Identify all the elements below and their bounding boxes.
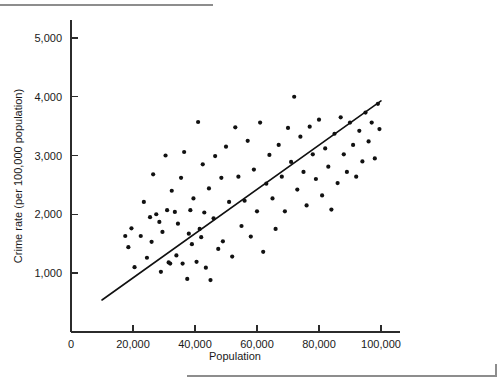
x-axis: 020,00040,00060,00080,000100,000 Populat… (68, 325, 401, 362)
data-point (377, 127, 381, 131)
data-point (176, 222, 180, 226)
data-point (258, 121, 262, 125)
data-point (367, 139, 371, 143)
data-point (286, 126, 290, 130)
y-axis-title: Crime rate (per 100,000 population) (12, 89, 24, 263)
data-point (199, 235, 203, 239)
data-point (194, 260, 198, 264)
scatter-plot: 1,0002,0003,0004,0005,000 Crime rate (pe… (0, 0, 497, 385)
data-point (360, 159, 364, 163)
data-point (190, 242, 194, 246)
y-tick-label: 5,000 (34, 32, 62, 44)
data-point (249, 234, 253, 238)
data-point (129, 226, 133, 230)
data-point (336, 181, 340, 185)
data-point (239, 224, 243, 228)
x-tick-label: 80,000 (302, 338, 336, 350)
data-point (320, 193, 324, 197)
data-point (339, 115, 343, 119)
data-point (148, 215, 152, 219)
data-point (246, 139, 250, 143)
x-axis-ticks: 020,00040,00060,00080,000100,000 (68, 325, 401, 350)
data-point (311, 152, 315, 156)
data-point (179, 176, 183, 180)
data-point (174, 253, 178, 257)
data-point (221, 239, 225, 243)
data-point (326, 165, 330, 169)
data-point (345, 170, 349, 174)
data-point (298, 135, 302, 139)
data-point (201, 162, 205, 166)
data-point (342, 152, 346, 156)
x-tick-label: 100,000 (361, 338, 401, 350)
x-tick-label: 20,000 (116, 338, 150, 350)
data-point (230, 254, 234, 258)
data-point (151, 172, 155, 176)
data-point (165, 208, 169, 212)
data-point (277, 143, 281, 147)
data-point (373, 156, 377, 160)
data-point (370, 121, 374, 125)
y-tick-label: 3,000 (34, 150, 62, 162)
x-axis-title: Population (209, 350, 261, 362)
data-point (182, 150, 186, 154)
x-tick-label: 60,000 (240, 338, 274, 350)
data-point (132, 265, 136, 269)
data-point (142, 200, 146, 204)
data-point (323, 146, 327, 150)
data-point (261, 250, 265, 254)
data-point (351, 143, 355, 147)
data-point (213, 154, 217, 158)
data-point (236, 175, 240, 179)
data-point (173, 210, 177, 214)
y-tick-label: 4,000 (34, 91, 62, 103)
data-point (208, 278, 212, 282)
data-point (163, 153, 167, 157)
data-point (187, 232, 191, 236)
x-tick-label: 40,000 (178, 338, 212, 350)
x-tick-label: 0 (68, 338, 74, 350)
y-tick-label: 1,000 (34, 267, 62, 279)
data-point (188, 208, 192, 212)
data-point (191, 196, 195, 200)
data-point (274, 227, 278, 231)
data-point (170, 189, 174, 193)
data-point (207, 186, 211, 190)
data-point (224, 145, 228, 149)
data-point (123, 234, 127, 238)
data-point (314, 177, 318, 181)
data-point (219, 176, 223, 180)
data-point (295, 187, 299, 191)
data-point (255, 209, 259, 213)
data-point (301, 170, 305, 174)
data-point (159, 270, 163, 274)
data-point (233, 125, 237, 129)
data-point (357, 129, 361, 133)
data-point (329, 207, 333, 211)
data-point (160, 230, 164, 234)
data-point (154, 212, 158, 216)
data-point (181, 262, 185, 266)
data-point (252, 168, 256, 172)
data-points (123, 95, 381, 283)
data-point (185, 277, 189, 281)
data-point (196, 120, 200, 124)
data-point (267, 153, 271, 157)
data-point (145, 256, 149, 260)
data-point (202, 210, 206, 214)
data-point (283, 209, 287, 213)
data-point (292, 95, 296, 99)
data-point (308, 125, 312, 129)
data-point (270, 196, 274, 200)
data-point (227, 200, 231, 204)
data-point (168, 262, 172, 266)
data-point (139, 234, 143, 238)
data-point (317, 118, 321, 122)
data-point (126, 245, 130, 249)
data-point (204, 266, 208, 270)
data-point (354, 175, 358, 179)
y-axis: 1,0002,0003,0004,0005,000 Crime rate (pe… (12, 20, 78, 332)
y-tick-label: 2,000 (34, 208, 62, 220)
data-point (216, 247, 220, 251)
data-point (150, 240, 154, 244)
